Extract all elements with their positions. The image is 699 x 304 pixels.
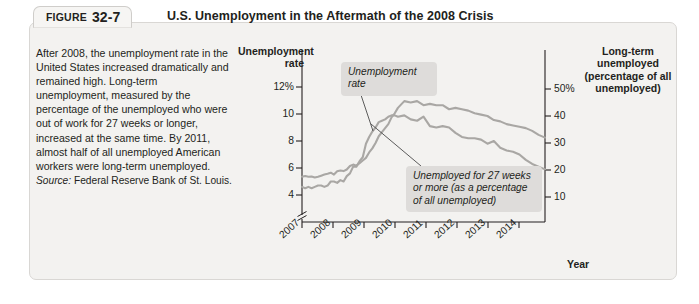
right-tick-label-50: 50% bbox=[554, 83, 575, 94]
left-tick-label-6: 6 bbox=[252, 162, 294, 173]
right-tick-label-10: 10 bbox=[554, 191, 565, 202]
callout-long-term-unemployed: Unemployed for 27 weeks or more (as a pe… bbox=[406, 166, 542, 212]
figure-number: 32-7 bbox=[92, 9, 120, 25]
chart-plot-area bbox=[236, 36, 676, 276]
left-tick-label-10: 10 bbox=[252, 108, 294, 119]
callout-line: rate bbox=[348, 78, 430, 90]
left-tick-label-4: 4 bbox=[252, 189, 294, 200]
callout-line: or more (as a percentage bbox=[413, 182, 535, 194]
callout-unemployment-rate: Unemployment rate bbox=[341, 62, 437, 96]
source-text: Federal Reserve Bank of St. Louis. bbox=[74, 175, 232, 186]
left-axis-ticks bbox=[296, 87, 302, 195]
caption-block: After 2008, the unemployment rate in the… bbox=[36, 46, 232, 187]
figure-number-tab: FIGURE 32-7 bbox=[33, 6, 132, 28]
right-tick-label-20: 20 bbox=[554, 164, 565, 175]
figure-label: FIGURE bbox=[46, 11, 87, 23]
source-label: Source: bbox=[36, 175, 71, 186]
caption-text: After 2008, the unemployment rate in the… bbox=[36, 46, 232, 173]
chart-svg bbox=[236, 36, 676, 276]
left-tick-label-12: 12% bbox=[252, 81, 294, 92]
right-tick-label-30: 30 bbox=[554, 137, 565, 148]
callout-leader-long-term bbox=[371, 124, 421, 166]
figure-page: FIGURE 32-7 U.S. Unemployment in the Aft… bbox=[0, 0, 699, 304]
caption-source: Source: Federal Reserve Bank of St. Loui… bbox=[36, 174, 232, 187]
right-tick-label-40: 40 bbox=[554, 110, 565, 121]
left-tick-label-8: 8 bbox=[252, 135, 294, 146]
callout-line: of all unemployed) bbox=[413, 195, 535, 207]
callout-line: Unemployment bbox=[348, 66, 430, 78]
right-axis-ticks bbox=[545, 89, 551, 197]
callout-line: Unemployed for 27 weeks bbox=[413, 170, 535, 182]
figure-title: U.S. Unemployment in the Aftermath of th… bbox=[167, 9, 494, 23]
